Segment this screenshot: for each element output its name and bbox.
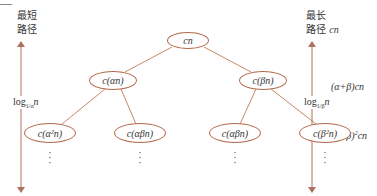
level2-cost-suffix: cn [358,130,367,141]
continuation-dots-4: ··· [322,151,328,166]
edge-root-a [125,47,172,72]
node-beta-squared-n: c(β²n) [299,123,351,143]
log-arg: n [34,96,39,107]
shortest-path-title-line2: 路径 [17,23,37,37]
shortest-path-title: 最短 路径 [17,9,37,37]
continuation-dots-1: ··· [47,151,53,166]
log-base: 1/β [317,103,325,109]
log-text: log [13,96,26,107]
longest-path-title-line2: 路径 [306,24,326,35]
level1-cost: (α+β)cn [331,80,364,94]
longest-path-title: 最长 路径 cn [306,9,339,37]
node-alpha-beta-n-left: c(αβn) [114,123,166,143]
node-alpha-squared-n: c(α²n) [24,123,76,143]
log-base: 1/α [26,103,34,109]
edge-root-b [204,47,251,72]
edge-a-ab [121,89,136,124]
edge-a-aa [62,89,105,124]
right-height-label: log1/βn [303,96,331,109]
continuation-dots-3: ··· [232,151,238,166]
left-height-label: log1/αn [12,96,40,109]
edge-b-ba [240,89,256,124]
continuation-dots-2: ··· [137,151,143,166]
node-beta-n: c(βn) [239,71,287,90]
node-alpha-beta-n-right: c(αβn) [209,123,261,143]
longest-path-title-line1: 最长 [306,9,339,23]
shortest-path-title-line1: 最短 [17,9,37,23]
longest-path-root-cost: cn [329,24,338,35]
log-arg: n [325,96,330,107]
node-root: cn [167,32,209,49]
log-text: log [304,96,317,107]
node-alpha-n: c(αn) [89,71,137,90]
